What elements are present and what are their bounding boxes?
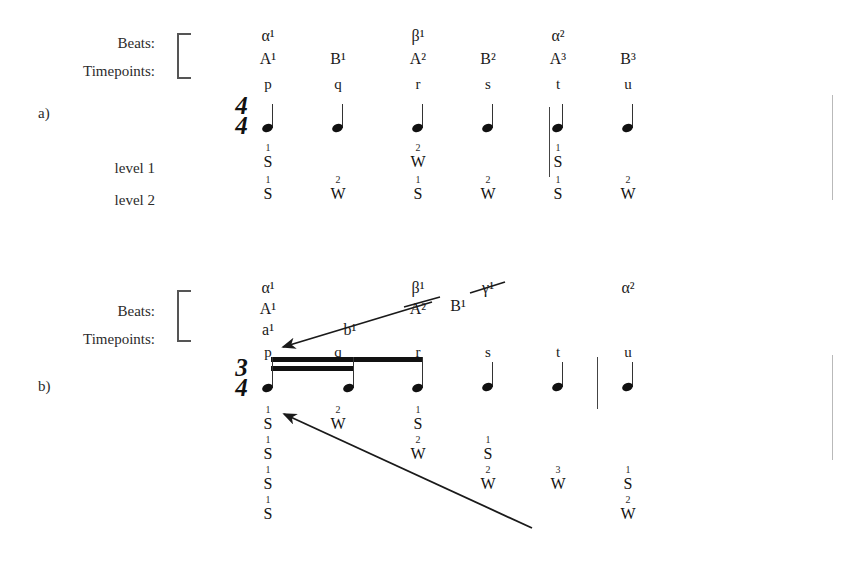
panel-b-right-edge-rule [832,355,833,460]
panel-b-timepoint-u: u [608,344,648,361]
panel-b-level-3-t: 3 W [545,465,571,492]
note-head [261,382,274,393]
panel-b-beats-row-label: Beats: [45,303,155,320]
note-head [551,381,564,392]
accent-letter: S [475,446,501,462]
accent-letter: W [545,476,571,492]
accent-letter: W [325,416,351,432]
panel-b: b) Beats: Timepoints: α¹ β¹ γ¹ α² A¹ A² … [0,0,862,572]
panel-b-beat-lower-p: a¹ [248,322,288,339]
panel-b-beat-latin-r: A² [398,301,438,318]
note-stem [272,357,273,388]
accent-letter: W [615,506,641,522]
panel-b-label: b) [38,378,51,395]
panel-b-beam-outer-p-r [271,357,423,362]
figure-canvas: a) Beats: Timepoints: α¹ β¹ α² A¹ B¹ A² … [0,0,862,572]
panel-b-level-3-s: 2 W [475,465,501,492]
accent-letter: S [615,476,641,492]
panel-b-level-3-u: 1 S [615,465,641,492]
panel-b-beat-greek-s: γ¹ [468,280,508,297]
panel-b-timepoint-t: t [538,344,578,361]
panel-b-level-4-p: 1 S [255,495,281,522]
panel-b-timepoint-s: s [468,344,508,361]
panel-b-level-1-r: 1 S [405,405,431,432]
panel-b-beat-greek-p: α¹ [248,280,288,297]
panel-b-level-1-p: 1 S [255,405,281,432]
note-head [621,381,634,392]
accent-letter: W [475,476,501,492]
accent-letter: S [405,416,431,432]
panel-b-beat-latin-B1-floating: B¹ [443,298,473,315]
accent-letter: S [255,416,281,432]
panel-b-level-5-p [255,525,281,536]
accent-letter: S [255,506,281,522]
accent-letter: W [405,446,431,462]
panel-b-level-3-p: 1 S [255,465,281,492]
panel-b-level-4-u: 2 W [615,495,641,522]
accent-letter: S [255,476,281,492]
panel-b-timepoints-row-label: Timepoints: [35,331,155,348]
panel-b-beat-latin-p: A¹ [248,301,288,318]
panel-b-beat-lower-q: b¹ [330,322,370,339]
note-stem [422,357,423,388]
panel-b-level-2-s: 1 S [475,435,501,462]
panel-b-beats-bracket [177,290,191,342]
accent-number [255,525,281,536]
note-stem [353,357,354,388]
panel-b-beam-inner-p-q [271,366,353,371]
accent-letter: S [255,446,281,462]
note-head [342,382,355,393]
panel-b-level-1-q: 2 W [325,405,351,432]
panel-b-level-2-p: 1 S [255,435,281,462]
note-head [411,382,424,393]
panel-b-level-2-r: 2 W [405,435,431,462]
panel-b-beat-greek-u: α² [608,280,648,297]
panel-b-beat-greek-r: β¹ [398,280,438,297]
note-head [481,381,494,392]
panel-b-time-signature: 3 4 [228,358,254,397]
panel-b-barline-before-u [597,357,598,409]
panel-b-time-signature-bottom: 4 [228,378,254,398]
